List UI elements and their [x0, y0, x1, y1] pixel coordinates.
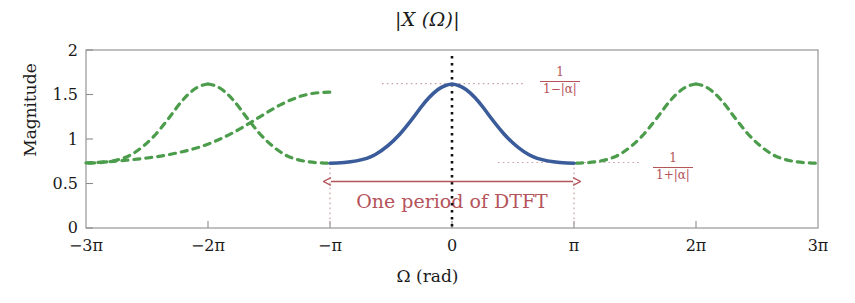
guide-lines [330, 56, 640, 228]
plot-canvas [0, 0, 855, 303]
dashed-curve-right-lower [574, 84, 696, 163]
dashed-curve-left [86, 92, 330, 163]
plot-frame [86, 50, 818, 228]
dtft-magnitude-figure: |X (Ω)| Magnitude Ω (rad) 2 1.5 1 0.5 0 … [0, 0, 855, 303]
dashed-curve-right-upper [696, 84, 818, 163]
dashed-repetition-curves [86, 84, 818, 163]
principal-period-curve [330, 84, 574, 163]
y-axis-ticks [86, 50, 93, 228]
dashed-curve-left-upper [86, 84, 208, 163]
dashed-curve-left-lower [208, 84, 330, 163]
